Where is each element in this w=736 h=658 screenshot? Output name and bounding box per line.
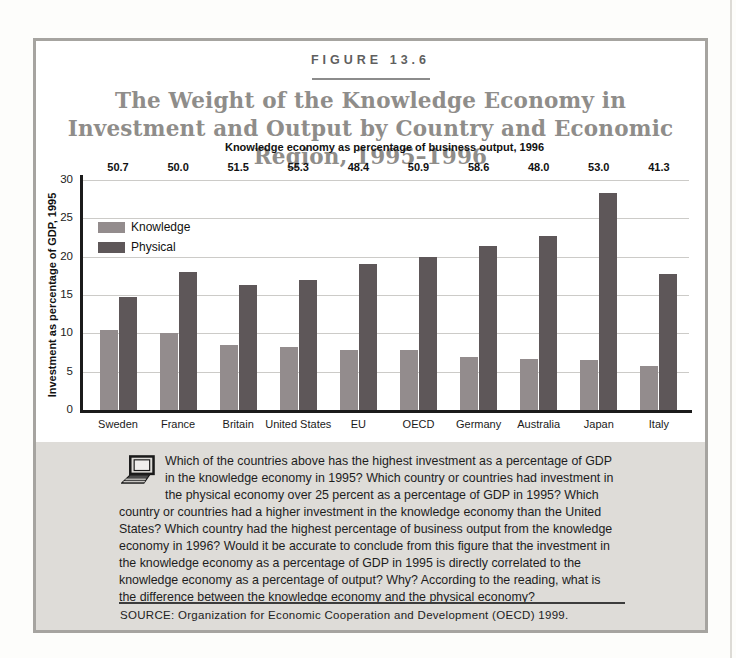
- bar-physical-italy: [659, 274, 677, 410]
- chart-legend: KnowledgePhysical: [98, 220, 190, 260]
- y-tick-20: 20: [36, 250, 73, 262]
- y-tick-30: 30: [36, 173, 73, 185]
- bar-knowledge-italy: [640, 366, 658, 410]
- legend-row-knowledge: Knowledge: [98, 220, 190, 234]
- source-text: SOURCE: Organization for Economic Cooper…: [120, 609, 640, 621]
- y-tick-5: 5: [36, 365, 73, 377]
- question-text-content: Which of the countries above has the hig…: [119, 454, 613, 604]
- bar-knowledge-eu: [340, 350, 358, 410]
- legend-label-physical: Physical: [131, 240, 176, 254]
- top-value-united-states: 55.3: [270, 161, 326, 173]
- bar-knowledge-australia: [520, 359, 538, 410]
- bar-knowledge-oecd: [400, 350, 418, 410]
- gridline-15: [80, 295, 689, 296]
- bar-physical-oecd: [419, 257, 437, 410]
- figure-box: FIGURE 13.6 The Weight of the Knowledge …: [33, 38, 708, 633]
- bar-physical-britain: [239, 285, 257, 410]
- y-tick-25: 25: [36, 211, 73, 223]
- top-value-sweden: 50.7: [90, 161, 146, 173]
- bar-physical-japan: [599, 193, 617, 410]
- bar-physical-eu: [359, 264, 377, 410]
- x-label-italy: Italy: [614, 418, 704, 430]
- computer-icon: [121, 455, 157, 486]
- bar-physical-sweden: [119, 297, 137, 410]
- bar-knowledge-japan: [580, 360, 598, 410]
- legend-swatch-knowledge: [98, 222, 125, 233]
- top-axis-title: Knowledge economy as percentage of busin…: [80, 141, 689, 153]
- bar-knowledge-britain: [220, 345, 238, 410]
- page-edge-line: [730, 0, 732, 658]
- bar-knowledge-germany: [460, 357, 478, 410]
- y-tick-15: 15: [36, 288, 73, 300]
- legend-row-physical: Physical: [98, 240, 190, 254]
- y-tick-0: 0: [36, 403, 73, 415]
- bar-knowledge-united-states: [280, 347, 298, 410]
- top-value-japan: 53.0: [571, 161, 627, 173]
- top-value-eu: 48.4: [330, 161, 386, 173]
- top-value-italy: 41.3: [631, 161, 687, 173]
- bar-physical-france: [179, 272, 197, 410]
- top-value-britain: 51.5: [210, 161, 266, 173]
- top-value-france: 50.0: [150, 161, 206, 173]
- bar-physical-australia: [539, 236, 557, 410]
- bar-physical-united-states: [299, 280, 317, 410]
- legend-swatch-physical: [98, 242, 125, 253]
- gridline-30: [80, 180, 689, 181]
- question-box: Which of the countries above has the hig…: [36, 442, 705, 630]
- question-text: Which of the countries above has the hig…: [119, 453, 620, 606]
- top-value-oecd: 50.9: [391, 161, 447, 173]
- top-value-germany: 58.6: [451, 161, 507, 173]
- source-divider-line: [119, 602, 625, 604]
- x-axis-line: [80, 410, 692, 413]
- top-value-australia: 48.0: [511, 161, 567, 173]
- y-axis-line: [80, 175, 83, 413]
- bar-physical-germany: [479, 246, 497, 410]
- bar-knowledge-france: [160, 333, 178, 410]
- y-tick-10: 10: [36, 326, 73, 338]
- bar-knowledge-sweden: [100, 330, 118, 410]
- legend-label-knowledge: Knowledge: [131, 220, 190, 234]
